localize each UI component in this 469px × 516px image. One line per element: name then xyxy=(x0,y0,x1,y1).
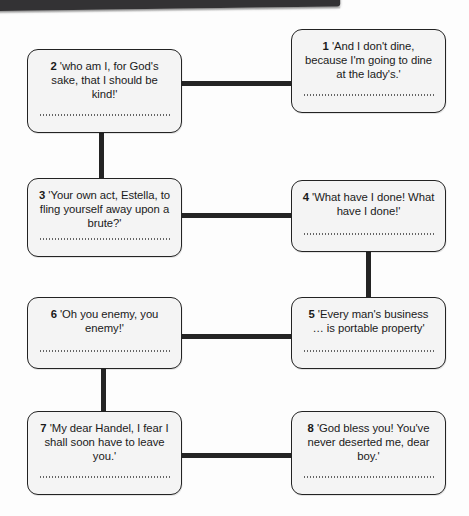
quote-box-5-quote: 'Every man's business … is portable prop… xyxy=(312,308,428,334)
quote-box-4[interactable]: 4 'What have I done! What have I done!' xyxy=(291,180,446,252)
quote-box-3[interactable]: 3 'Your own act, Estella, to fling yours… xyxy=(27,178,182,257)
quote-box-2-quote: 'who am I, for God's sake, that I should… xyxy=(51,60,158,100)
quote-box-3-number: 3 xyxy=(39,189,45,201)
quote-box-5[interactable]: 5 'Every man's business … is portable pr… xyxy=(291,297,446,369)
quote-box-8-answer-line[interactable] xyxy=(303,476,434,478)
quote-box-3-answer-line[interactable] xyxy=(39,238,170,240)
page-header-bar xyxy=(0,0,340,11)
quote-box-5-text: 5 'Every man's business … is portable pr… xyxy=(302,307,435,335)
quote-box-6-answer-line[interactable] xyxy=(39,350,170,352)
quote-box-5-answer-line[interactable] xyxy=(303,350,434,352)
quote-box-1[interactable]: 1 'And I don't dine, because I'm going t… xyxy=(291,29,446,113)
quote-box-8[interactable]: 8 'God bless you! You've never deserted … xyxy=(291,411,446,495)
quote-box-5-number: 5 xyxy=(309,308,315,320)
connector-2-to-1 xyxy=(178,81,295,86)
quote-box-4-text: 4 'What have I done! What have I done!' xyxy=(302,190,435,218)
connector-6-to-7 xyxy=(101,365,106,415)
quote-box-7-number: 7 xyxy=(40,422,46,434)
quote-box-8-text: 8 'God bless you! You've never deserted … xyxy=(302,421,435,464)
quote-box-2-answer-line[interactable] xyxy=(39,114,170,116)
quote-box-6[interactable]: 6 'Oh you enemy, you enemy!' xyxy=(27,297,182,369)
quote-box-7-text: 7 'My dear Handel, I fear I shall soon h… xyxy=(38,421,171,464)
connector-7-to-8 xyxy=(178,453,295,458)
quote-box-1-text: 1 'And I don't dine, because I'm going t… xyxy=(302,39,435,82)
quote-box-3-quote: 'Your own act, Estella, to fling yoursel… xyxy=(40,189,170,229)
quote-box-2-text: 2 'who am I, for God's sake, that I shou… xyxy=(38,59,171,102)
connector-2-to-3 xyxy=(99,129,104,182)
quote-box-2-number: 2 xyxy=(50,60,56,72)
quote-box-7[interactable]: 7 'My dear Handel, I fear I shall soon h… xyxy=(27,411,182,495)
quote-box-4-answer-line[interactable] xyxy=(303,233,434,235)
connector-3-to-4 xyxy=(178,213,295,218)
quote-box-6-quote: 'Oh you enemy, you enemy!' xyxy=(60,308,158,334)
quote-box-8-number: 8 xyxy=(308,422,314,434)
quote-box-1-number: 1 xyxy=(323,40,329,52)
quote-box-6-number: 6 xyxy=(51,308,57,320)
quote-box-3-text: 3 'Your own act, Estella, to fling yours… xyxy=(38,188,171,231)
quote-box-8-quote: 'God bless you! You've never deserted me… xyxy=(308,422,430,462)
quote-box-7-answer-line[interactable] xyxy=(39,476,170,478)
quote-box-4-quote: 'What have I done! What have I done!' xyxy=(312,191,434,217)
quote-box-4-number: 4 xyxy=(303,191,309,203)
connector-5-to-6 xyxy=(178,334,295,339)
worksheet-page: 1 'And I don't dine, because I'm going t… xyxy=(0,0,469,516)
quote-box-7-quote: 'My dear Handel, I fear I shall soon hav… xyxy=(44,422,168,462)
connector-4-to-5 xyxy=(366,248,371,301)
quote-box-1-answer-line[interactable] xyxy=(303,94,434,96)
quote-box-2[interactable]: 2 'who am I, for God's sake, that I shou… xyxy=(27,49,182,133)
quote-box-6-text: 6 'Oh you enemy, you enemy!' xyxy=(38,307,171,335)
